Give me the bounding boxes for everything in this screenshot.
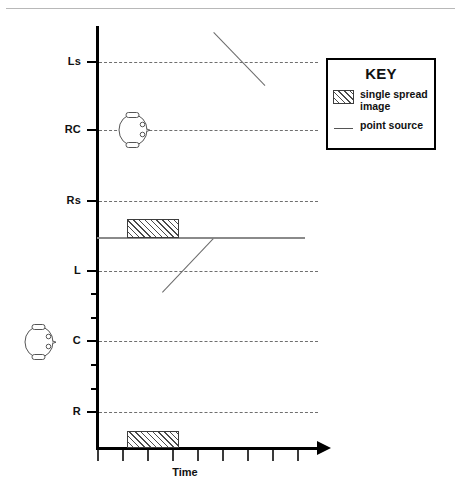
x-tick-2 [122,450,124,461]
y-tick-minor-2 [91,317,99,319]
x-tick-6 [222,450,224,461]
x-tick-5 [197,450,199,461]
gridline-c [99,341,318,342]
hatched-rectangle-icon [333,90,354,104]
y-tick-r [87,411,99,413]
y-label-l-wrap: L [35,265,81,277]
y-label-ls-wrap: Ls [35,56,81,68]
y-label-rc-wrap: RC [35,124,81,136]
y-tick-l [87,270,99,272]
point-source-ascending-line [162,238,214,292]
axis-arrow-icon [317,441,331,455]
y-label-rs-wrap: Rs [35,195,81,207]
y-tick-ls [87,61,99,63]
figure-root: Ls RC Rs L C R Time [0,0,461,498]
x-tick-7 [247,450,249,461]
gridline-r [99,412,318,413]
y-label-rs: Rs [41,195,81,206]
y-label-rc: RC [41,124,81,135]
y-tick-c [87,340,99,342]
legend-entry-point-source: point source [328,120,434,135]
x-tick-3 [147,450,149,461]
y-tick-minor-4 [91,388,99,390]
y-tick-rs [87,200,99,202]
gridline-l [99,271,318,272]
point-source-descending-line [213,32,265,86]
x-tick-4 [172,450,174,461]
x-tick-1 [97,450,99,461]
y-label-l: L [41,265,81,276]
top-divider-rule [6,8,455,9]
legend-entry-spread-image: single spread image [328,89,434,113]
listener-head-icon-secondary [18,320,62,364]
y-label-r: R [41,406,81,417]
x-axis-title: Time [135,466,235,478]
legend-label-point-source: point source [360,120,423,132]
legend-title: KEY [328,65,434,82]
legend-key-box: KEY single spread image point source [326,58,436,150]
y-tick-minor-1 [91,293,99,295]
x-tick-8 [272,450,274,461]
y-label-ls: Ls [41,56,81,67]
spread-image-rect-upper [127,219,179,238]
y-tick-rc [87,129,99,131]
gridline-rs [99,201,318,202]
line-segment-icon [333,121,354,135]
listener-head-icon [112,108,156,152]
y-tick-minor-3 [91,364,99,366]
x-tick-9 [297,450,299,461]
gridline-ls [99,62,318,63]
spread-image-rect-lower [127,431,179,448]
y-label-r-wrap: R [35,406,81,418]
legend-label-spread-image: single spread image [360,89,434,113]
